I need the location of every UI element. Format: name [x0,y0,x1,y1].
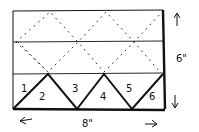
triangle-label-5: 5 [126,83,132,94]
height-arrow-up-icon [174,13,180,26]
height-arrow-down-icon [172,95,178,108]
diagram-canvas: 1 2 3 4 5 6 8" 6" [0,0,199,132]
width-label: 8" [82,118,93,129]
fold-line-lower [13,73,164,74]
triangle-label-4: 4 [100,91,106,102]
triangle-label-2: 2 [39,91,45,102]
zigzag-triangles [13,74,163,109]
width-arrow-left-icon [20,117,32,124]
height-label: 6" [176,53,187,64]
triangle-label-3: 3 [72,83,78,94]
triangle-label-6: 6 [149,91,155,102]
width-arrow-right-icon [145,120,157,127]
triangle-label-1: 1 [21,83,27,94]
fold-line-upper [13,41,164,42]
